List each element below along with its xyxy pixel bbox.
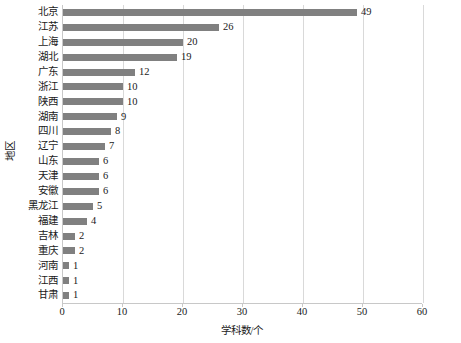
bar <box>63 98 123 105</box>
bar <box>63 54 177 61</box>
plot-area: 492620191210109876665422111 <box>62 5 422 303</box>
y-axis-tick-label: 上海 <box>14 35 62 50</box>
bar-row: 7 <box>63 139 422 154</box>
y-axis-tick-label: 浙江 <box>14 80 62 95</box>
y-axis-tick-label: 江西 <box>14 273 62 288</box>
bar-value-label: 1 <box>73 276 78 287</box>
bar-row: 12 <box>63 65 422 80</box>
bar-value-label: 1 <box>73 290 78 301</box>
y-axis-tick-label: 福建 <box>14 214 62 229</box>
bar <box>63 83 123 90</box>
y-axis-tick-label: 安徽 <box>14 184 62 199</box>
y-axis-tick-label: 天津 <box>14 169 62 184</box>
bar <box>63 39 183 46</box>
bar-row: 4 <box>63 214 422 229</box>
x-axis-tick-label: 10 <box>117 304 128 320</box>
bar-row: 19 <box>63 50 422 65</box>
bar-row: 5 <box>63 199 422 214</box>
bar <box>63 158 99 165</box>
y-axis-tick-label: 重庆 <box>14 244 62 259</box>
bar-row: 6 <box>63 184 422 199</box>
x-axis-tick-label: 40 <box>297 304 308 320</box>
bar-value-label: 12 <box>139 67 150 78</box>
x-axis-tick-label: 50 <box>357 304 368 320</box>
y-axis-tick-label: 广东 <box>14 65 62 80</box>
x-axis-tick-labels: 0102030405060 <box>62 304 422 320</box>
bar-row: 26 <box>63 20 422 35</box>
bar-value-label: 1 <box>73 261 78 272</box>
bar <box>63 143 105 150</box>
bar-row: 10 <box>63 80 422 95</box>
bar-row: 8 <box>63 124 422 139</box>
bar-series: 492620191210109876665422111 <box>63 5 422 303</box>
bar-row: 1 <box>63 258 422 273</box>
x-axis-tick-label: 0 <box>59 304 64 320</box>
bar-value-label: 7 <box>109 141 114 152</box>
bar-row: 2 <box>63 244 422 259</box>
y-axis-tick-label: 吉林 <box>14 229 62 244</box>
y-axis-tick-label: 甘肃 <box>14 288 62 303</box>
bar-value-label: 9 <box>121 112 126 123</box>
bar-row: 49 <box>63 5 422 20</box>
x-axis-tick-label: 20 <box>177 304 188 320</box>
bar-value-label: 26 <box>223 22 234 33</box>
bar-row: 10 <box>63 94 422 109</box>
bar-value-label: 2 <box>79 231 84 242</box>
bar-value-label: 20 <box>187 37 198 48</box>
x-axis-tick-label: 30 <box>237 304 248 320</box>
bar-value-label: 8 <box>115 126 120 137</box>
bar-row: 6 <box>63 154 422 169</box>
bar-row: 6 <box>63 169 422 184</box>
y-axis-tick-label: 北京 <box>14 5 62 20</box>
y-axis-tick-label: 山东 <box>14 154 62 169</box>
gridline <box>423 5 424 303</box>
bar <box>63 113 117 120</box>
y-axis-tick-label: 江苏 <box>14 20 62 35</box>
bar-value-label: 5 <box>97 201 102 212</box>
y-axis-tick-label: 黑龙江 <box>14 199 62 214</box>
bar-row: 9 <box>63 109 422 124</box>
bar-row: 20 <box>63 35 422 50</box>
bar-value-label: 19 <box>181 52 192 63</box>
bar <box>63 277 69 284</box>
bar <box>63 9 357 16</box>
bar <box>63 218 87 225</box>
y-axis-tick-label: 河南 <box>14 258 62 273</box>
bar-row: 1 <box>63 288 422 303</box>
bar <box>63 203 93 210</box>
y-axis-tick-label: 辽宁 <box>14 139 62 154</box>
y-axis-tick-label: 湖北 <box>14 50 62 65</box>
bar-row: 2 <box>63 229 422 244</box>
bar-value-label: 10 <box>127 97 138 108</box>
bar-value-label: 6 <box>103 156 108 167</box>
bar <box>63 262 69 269</box>
bar-chart: 地区 北京江苏上海湖北广东浙江陕西湖南四川辽宁山东天津安徽黑龙江福建吉林重庆河南… <box>0 0 461 343</box>
bar-value-label: 4 <box>91 216 96 227</box>
bar-value-label: 49 <box>361 7 372 18</box>
bar-value-label: 2 <box>79 246 84 257</box>
bar <box>63 24 219 31</box>
bar <box>63 292 69 299</box>
x-axis-tick-label: 60 <box>417 304 428 320</box>
x-axis-title: 学科数/个 <box>62 322 422 337</box>
bar-value-label: 6 <box>103 171 108 182</box>
y-axis-tick-label: 四川 <box>14 124 62 139</box>
bar <box>63 173 99 180</box>
bar <box>63 247 75 254</box>
bar-value-label: 6 <box>103 186 108 197</box>
bar-value-label: 10 <box>127 82 138 93</box>
bar <box>63 188 99 195</box>
y-axis-category-labels: 北京江苏上海湖北广东浙江陕西湖南四川辽宁山东天津安徽黑龙江福建吉林重庆河南江西甘… <box>14 5 62 303</box>
bar <box>63 69 135 76</box>
y-axis-tick-label: 湖南 <box>14 109 62 124</box>
y-axis-tick-label: 陕西 <box>14 94 62 109</box>
bar <box>63 128 111 135</box>
bar <box>63 233 75 240</box>
bar-row: 1 <box>63 273 422 288</box>
